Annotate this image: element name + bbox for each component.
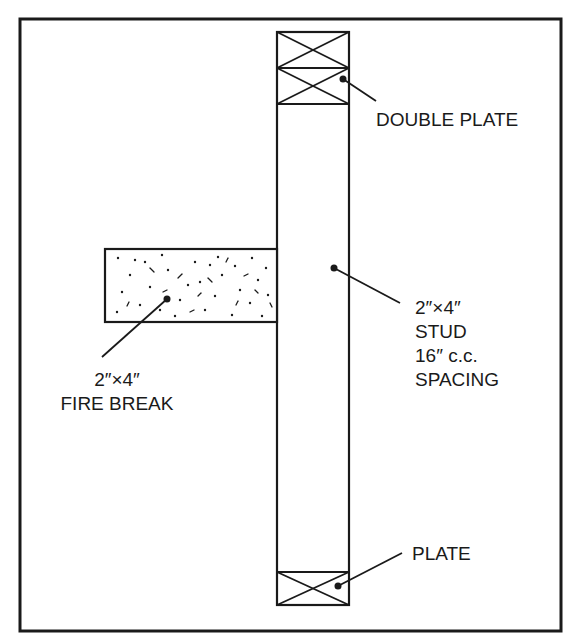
label-fire-break-line-2: FIRE BREAK (54, 392, 180, 416)
label-stud-line-1: 2″×4″ (415, 296, 499, 320)
label-stud-line-3: 16″ c.c. (415, 344, 499, 368)
label-plate: PLATE (412, 542, 471, 566)
stud (277, 32, 349, 605)
label-stud-line-2: STUD (415, 320, 499, 344)
label-stud-line-4: SPACING (415, 368, 499, 392)
label-stud: 2″×4″ STUD 16″ c.c. SPACING (415, 296, 499, 392)
label-fire-break: 2″×4″ FIRE BREAK (54, 368, 180, 416)
fire-break (105, 249, 277, 322)
label-double-plate: DOUBLE PLATE (376, 108, 518, 132)
label-fire-break-line-1: 2″×4″ (54, 368, 180, 392)
